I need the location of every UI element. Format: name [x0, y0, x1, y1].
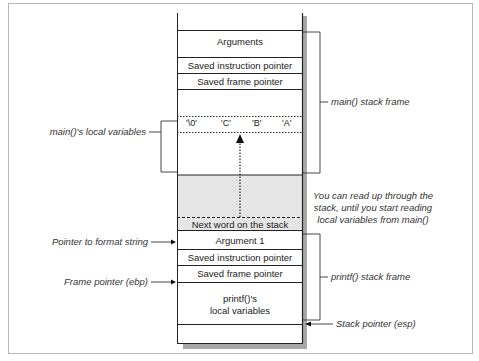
printf-stack-frame-label: printf() stack frame: [331, 271, 410, 282]
arrow-up-icon: [236, 134, 244, 143]
printf-saved-ip-cell: Saved instruction pointer: [178, 252, 302, 263]
local-byte-c: 'C': [221, 118, 231, 128]
arrow-right-icon: [171, 240, 176, 245]
stack-pointer-label: Stack pointer (esp): [336, 318, 416, 329]
main-saved-fp-cell: Saved frame pointer: [178, 76, 302, 87]
pointer-to-format-label: Pointer to format string: [20, 236, 148, 247]
local-byte-null: '\0': [186, 118, 197, 128]
printf-locals-line2: local variables: [178, 305, 302, 316]
read-note-line3: local variables from main(): [308, 214, 438, 225]
next-word-cell: Next word on the stack: [178, 219, 302, 230]
arrow-right-icon: [171, 280, 176, 285]
stack-shadow-right: [303, 16, 307, 349]
printf-saved-fp-cell: Saved frame pointer: [178, 268, 302, 279]
local-byte-a: 'A': [282, 118, 291, 128]
main-locals-label: main()'s local variables: [40, 126, 146, 137]
argument1-cell: Argument 1: [178, 235, 302, 246]
main-saved-ip-cell: Saved instruction pointer: [178, 60, 302, 71]
printf-locals-line1: printf()'s: [178, 293, 302, 304]
arguments-cell: Arguments: [178, 36, 302, 47]
read-note-line1: You can read up through the: [308, 190, 438, 201]
local-byte-b: 'B': [252, 118, 261, 128]
main-stack-frame-label: main() stack frame: [331, 96, 410, 107]
stack-shadow-bottom: [183, 344, 307, 349]
read-note-line2: stack, until you start reading: [308, 202, 438, 213]
frame-pointer-label: Frame pointer (ebp): [20, 276, 148, 287]
